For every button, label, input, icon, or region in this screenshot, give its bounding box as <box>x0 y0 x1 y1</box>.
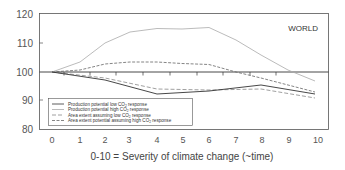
series-production-low-co2 <box>52 72 315 94</box>
y-tick-label: 110 <box>17 38 33 49</box>
y-tick-label: 100 <box>16 67 33 78</box>
region-annotation: WORLD <box>288 24 318 33</box>
x-tick-label: 0 <box>49 135 54 145</box>
y-tick-label: 120 <box>16 9 33 20</box>
x-tick-label: 1 <box>77 135 82 145</box>
x-tick-label: 5 <box>180 135 185 145</box>
x-tick-label: 8 <box>259 135 264 145</box>
x-tick-label: 10 <box>313 135 323 145</box>
x-tick-label: 3 <box>126 135 131 145</box>
y-axis: 120 110 100 90 80 <box>16 9 43 136</box>
line-chart: 120 110 100 90 80 WORLD Production poten… <box>0 0 345 170</box>
series-area-extent-low-co2 <box>52 72 315 98</box>
x-axis-title: 0-10 = Severity of climate change (~time… <box>91 151 274 162</box>
x-axis: 0 1 2 3 4 5 6 7 8 9 10 <box>49 135 323 145</box>
x-tick-label: 2 <box>102 135 107 145</box>
reference-line-100 <box>40 72 329 76</box>
x-tick-label: 9 <box>286 135 291 145</box>
y-tick-label: 80 <box>22 124 34 135</box>
x-tick-label: 6 <box>206 135 211 145</box>
legend: Production potential low CO2 response Pr… <box>49 99 193 126</box>
series-production-high-co2 <box>52 28 315 82</box>
y-tick-label: 90 <box>22 95 34 106</box>
x-tick-label: 4 <box>154 135 159 145</box>
x-tick-label: 7 <box>233 135 238 145</box>
